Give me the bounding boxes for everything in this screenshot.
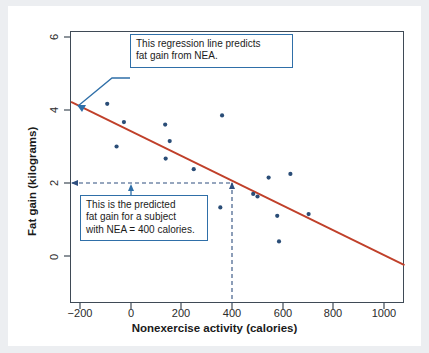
data-point [307, 212, 311, 216]
data-point [277, 239, 281, 243]
data-point [267, 175, 271, 179]
data-point [168, 139, 172, 143]
data-point [164, 156, 168, 160]
guide-arrow-left [71, 180, 78, 186]
data-point [251, 192, 255, 196]
data-point [288, 172, 292, 176]
callout-regression-line: This regression line predicts fat gain f… [130, 34, 293, 68]
figure-panel: Fat gain (kilograms) 6 4 2 0 −200 0 200 … [8, 6, 421, 346]
data-point [220, 113, 224, 117]
callout-prediction: This is the predicted fat gain for a sub… [80, 195, 208, 241]
data-point [105, 102, 109, 106]
callout-leader-lines [77, 78, 134, 195]
data-point [275, 214, 279, 218]
leader-line-regression [78, 78, 130, 106]
data-point [192, 167, 196, 171]
leader-arrow-prediction [128, 184, 134, 191]
data-point [163, 123, 167, 127]
data-point [255, 194, 259, 198]
data-point [122, 120, 126, 124]
data-point [218, 205, 222, 209]
data-point [114, 144, 118, 148]
